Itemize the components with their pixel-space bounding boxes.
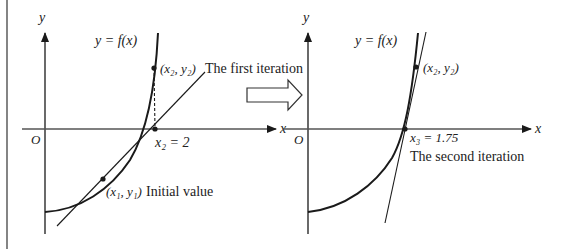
left-panel: y x O y = f(x) (x₂, y₂) The first iterat…: [22, 10, 303, 234]
right-point-x3-intercept: [402, 126, 407, 131]
left-point-x2y2-label: (x₂, y₂): [160, 61, 196, 76]
right-x-axis-label: x: [534, 121, 542, 136]
right-curve-label: y = f(x): [353, 33, 397, 49]
left-intercept-label: x₂ = 2: [154, 135, 190, 150]
left-point-x1y1: [100, 176, 105, 181]
right-second-iteration-caption: The second iteration: [410, 149, 524, 164]
right-panel: y x O y = f(x) (x₂, y₂) x₃ = 1.75 The se…: [284, 10, 542, 234]
right-y-axis-label: y: [301, 10, 310, 25]
right-function-curve: [308, 33, 418, 212]
left-first-iteration-caption: The first iteration: [205, 61, 303, 76]
hollow-right-arrow-icon: [247, 80, 302, 110]
left-curve-label: y = f(x): [93, 33, 137, 49]
newton-method-diagram: y x O y = f(x) (x₂, y₂) The first iterat…: [0, 0, 564, 249]
right-point-x2y2: [413, 64, 418, 69]
left-initial-value-caption: Initial value: [146, 184, 213, 199]
right-origin-label: O: [294, 132, 304, 147]
left-point-x2-intercept: [152, 126, 157, 131]
left-point-x1y1-label: (x₁, y₁): [106, 184, 142, 199]
left-point-x2y2: [151, 65, 156, 70]
right-intercept-label: x₃ = 1.75: [409, 130, 459, 145]
right-point-x2y2-label: (x₂, y₂): [423, 60, 459, 75]
left-y-axis-label: y: [37, 10, 46, 25]
left-origin-label: O: [31, 132, 41, 147]
